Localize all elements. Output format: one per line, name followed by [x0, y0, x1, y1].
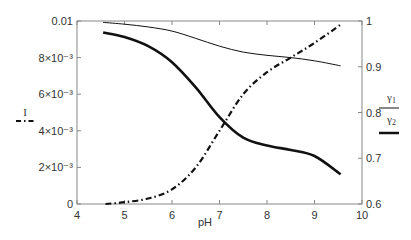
y-left-tick-label: 2×10⁻³	[39, 161, 74, 173]
y-right-tick-label: 0.6	[366, 198, 381, 210]
chart: 4567891002×10⁻³4×10⁻³6×10⁻³8×10⁻³0.010.6…	[0, 0, 411, 240]
x-tick-label: 4	[74, 209, 80, 221]
x-tick-label: 8	[264, 209, 270, 221]
gamma1-label: γ1	[386, 91, 396, 105]
x-tick-label: 10	[356, 209, 368, 221]
axes: 4567891002×10⁻³4×10⁻³6×10⁻³8×10⁻³0.010.6…	[39, 15, 382, 221]
y-right-tick-label: 0.7	[366, 152, 381, 164]
x-tick-label: 9	[311, 209, 317, 221]
series-γ1	[103, 22, 341, 65]
x-tick-label: 7	[216, 209, 222, 221]
y-left-tick-label: 8×10⁻³	[39, 52, 74, 64]
y-left-tick-label: 0	[67, 198, 73, 210]
series-I	[106, 25, 341, 204]
gamma2-label: γ2	[386, 113, 396, 127]
y-left-tick-label: 4×10⁻³	[39, 125, 74, 137]
left-legend-I: I	[16, 106, 36, 121]
x-axis-label: pH	[198, 216, 212, 228]
x-tick-label: 6	[169, 209, 175, 221]
series-γ2	[103, 32, 341, 174]
right-legend-gamma: γ1 γ2	[379, 91, 399, 133]
y-right-tick-label: 1	[366, 15, 372, 27]
y-right-tick-label: 0.9	[366, 61, 381, 73]
plot-area	[103, 22, 341, 204]
x-tick-label: 5	[121, 209, 127, 221]
y-left-label: I	[23, 106, 27, 118]
y-left-tick-label: 0.01	[52, 15, 73, 27]
y-left-tick-label: 6×10⁻³	[39, 88, 74, 100]
